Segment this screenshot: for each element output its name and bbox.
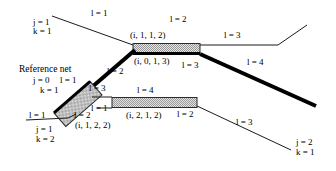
segment-bar-mid: [112, 98, 197, 108]
tuple-label-top-bar-below: (i, 0, 1, 3): [134, 56, 170, 66]
label-top-right-l3: l = 3: [224, 30, 241, 40]
label-diag-l2: l = 2: [107, 66, 124, 76]
label-top-left-l1: l = 1: [91, 8, 108, 18]
node-label-bottom-left-k: k = 2: [36, 134, 55, 144]
figure-canvas: l = 1 j = 1 k = 1 l = 2 (i, 1, 1, 2) l =…: [0, 0, 336, 171]
label-mid-bar-l4: l = 4: [137, 85, 154, 95]
label-box-l2: l = 2: [74, 110, 91, 120]
segment-bar-top: [133, 44, 200, 54]
label-box-l3: l = 3: [89, 83, 106, 93]
node-label-bottom-left-j: j = 1: [36, 124, 53, 134]
node-label-reference-j: j = 0: [33, 75, 50, 85]
node-label-reference-k: k = 1: [40, 85, 59, 95]
label-mid-bar-l2: l = 2: [177, 109, 194, 119]
label-bottom-left-l1: l = 1: [29, 110, 46, 120]
node-label-bottom-right-k: k = 1: [296, 147, 315, 157]
node-label-bottom-right-j: j = 2: [296, 137, 313, 147]
branch-line-top-right: [200, 25, 307, 45]
tuple-label-mid-bar: (i, 2, 1, 2): [126, 110, 162, 120]
branch-line-top-left: [52, 16, 133, 45]
branch-line-bottom-right: [197, 106, 291, 150]
reference-net-title: Reference net: [19, 64, 71, 74]
label-thick-diag-l4: l = 4: [247, 57, 264, 67]
label-top-mid-l2: l = 2: [170, 14, 187, 24]
tuple-label-rotated-box: (i, 1, 2, 2): [75, 120, 111, 130]
label-ref-l1: l = 1: [60, 75, 77, 85]
tuple-label-top-bar-above: (i, 1, 1, 2): [130, 30, 166, 40]
label-box-l1-right: l = 1: [91, 103, 108, 113]
label-bar-top-l3: l = 3: [182, 60, 199, 70]
node-label-top-left-k: k = 1: [33, 26, 52, 36]
label-bottom-right-l3: l = 3: [236, 117, 253, 127]
